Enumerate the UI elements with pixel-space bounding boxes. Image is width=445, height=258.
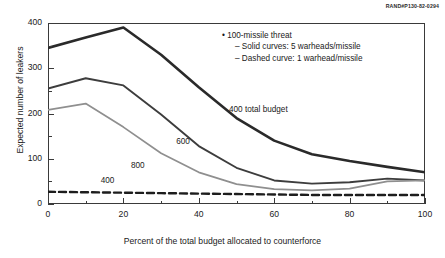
y-tick-50 <box>48 181 52 182</box>
curve-label-budget800: 800 <box>131 161 145 170</box>
x-tick-100 <box>425 198 426 204</box>
x-tick-label-20: 20 <box>108 209 138 219</box>
curve-label-budget400: 400 total budget <box>229 105 288 114</box>
x-tick-label-40: 40 <box>184 209 214 219</box>
y-tick-0 <box>48 204 54 205</box>
legend-solid-label: Solid curves: 5 warheads/missile <box>242 42 361 51</box>
x-axis-label: Percent of the total budget allocated to… <box>0 236 445 246</box>
y-tick-label-300: 300 <box>12 62 42 72</box>
y-tick-250 <box>48 91 52 92</box>
legend-dash-icon-dashed: – <box>235 54 240 63</box>
x-tick-20 <box>123 198 124 204</box>
y-tick-label-200: 200 <box>12 108 42 118</box>
x-tick-30 <box>161 201 162 205</box>
y-tick-100 <box>48 159 54 160</box>
curve-1 <box>48 78 425 183</box>
x-tick-50 <box>237 201 238 205</box>
x-tick-10 <box>86 201 87 205</box>
legend-line-threat: • 100-missile threat <box>222 30 362 41</box>
legend-line-dashed: – Dashed curve: 1 warhead/missile <box>222 53 362 64</box>
x-tick-80 <box>350 198 351 204</box>
curve-label-budget600: 600 <box>176 137 190 146</box>
curve-3 <box>48 192 425 195</box>
x-tick-label-100: 100 <box>410 209 440 219</box>
x-tick-40 <box>199 198 200 204</box>
publication-id: RAND#P130-82-0294 <box>386 3 439 9</box>
legend-bullet-icon: • <box>222 31 225 40</box>
y-tick-400 <box>48 23 54 24</box>
y-tick-200 <box>48 114 54 115</box>
x-tick-70 <box>312 201 313 205</box>
legend: • 100-missile threat – Solid curves: 5 w… <box>222 30 362 64</box>
y-tick-label-400: 400 <box>12 17 42 27</box>
x-tick-label-0: 0 <box>33 209 63 219</box>
y-tick-label-0: 0 <box>12 198 42 208</box>
x-tick-label-60: 60 <box>259 209 289 219</box>
y-tick-label-100: 100 <box>12 153 42 163</box>
x-tick-60 <box>274 198 275 204</box>
legend-dash-icon-solid: – <box>235 42 240 51</box>
y-tick-350 <box>48 46 52 47</box>
legend-line-solid: – Solid curves: 5 warheads/missile <box>222 41 362 52</box>
x-tick-label-80: 80 <box>335 209 365 219</box>
y-tick-300 <box>48 68 54 69</box>
y-tick-150 <box>48 136 52 137</box>
legend-dashed-label: Dashed curve: 1 warhead/missile <box>242 54 363 63</box>
legend-threat-label: 100-missile threat <box>227 31 292 40</box>
curve-label-dashed400: 400 <box>101 176 115 185</box>
figure: RAND#P130-82-0294 Expected number of lea… <box>0 0 445 258</box>
x-tick-90 <box>387 201 388 205</box>
